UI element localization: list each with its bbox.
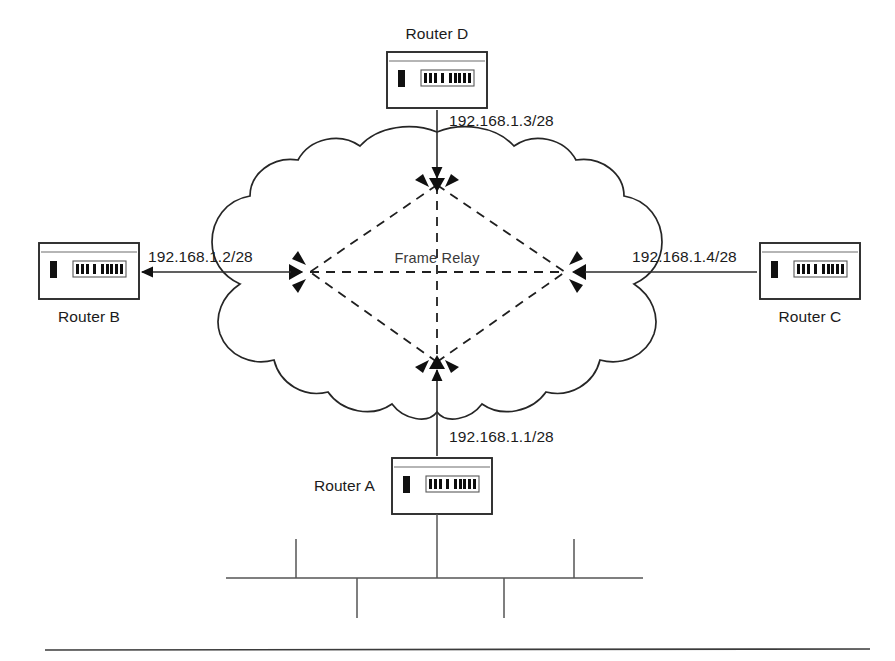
network-diagram-canvas: Frame Relay [0,0,895,661]
ip-label-router-d: 192.168.1.3/28 [449,112,554,129]
router-d-port-panel [421,70,474,86]
router-a[interactable]: Router A [314,458,492,514]
ip-label-router-b: 192.168.1.2/28 [148,248,253,265]
ethernet-lan-segment [226,514,643,618]
router-a-status-led [403,476,410,493]
router-d-status-led [398,70,405,87]
network-diagram-svg: Frame Relay [0,0,895,661]
router-a-label: Router A [314,477,376,494]
ip-label-router-c: 192.168.1.4/28 [632,248,737,265]
router-c-port-panel [794,261,847,277]
router-a-port-panel [426,476,479,492]
router-c-label: Router C [779,308,842,325]
router-c[interactable]: Router C [760,243,860,325]
router-b[interactable]: Router B [39,243,139,325]
router-c-status-led [771,261,778,278]
ip-label-router-a: 192.168.1.1/28 [449,428,554,445]
router-d[interactable]: Router D [387,25,487,108]
router-d-label: Router D [406,25,469,42]
page-footer-rule [45,649,870,650]
router-b-label: Router B [58,308,120,325]
router-b-port-panel [73,261,126,277]
router-b-status-led [50,261,57,278]
